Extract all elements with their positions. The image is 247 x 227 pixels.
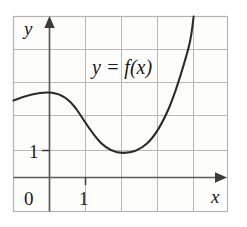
plot-area-background	[14, 17, 228, 212]
origin-label: 0	[24, 188, 34, 209]
function-graph-figure: y x 0 1 1 y = f(x)	[0, 0, 247, 227]
x-tick-label-one: 1	[79, 188, 89, 209]
y-axis-label: y	[22, 18, 33, 39]
y-tick-label-one: 1	[29, 141, 39, 162]
function-annotation-label: y = f(x)	[90, 56, 152, 79]
x-axis-label: x	[210, 186, 220, 207]
